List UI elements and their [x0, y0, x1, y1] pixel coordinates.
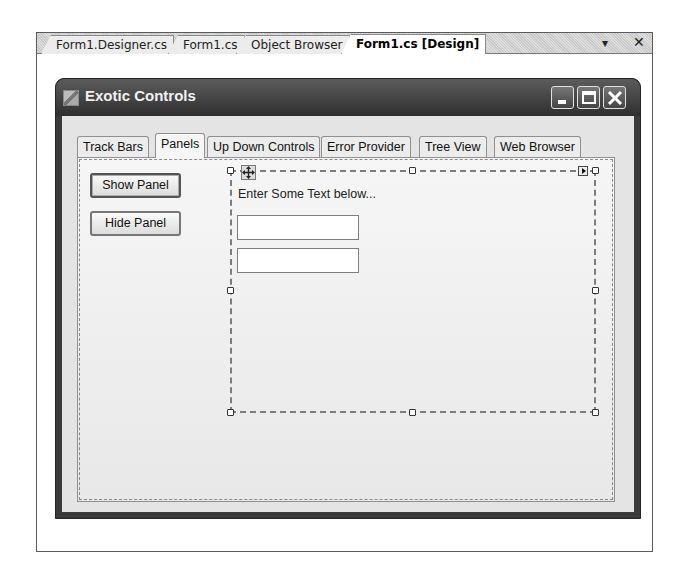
form-title: Exotic Controls — [85, 87, 196, 104]
panel[interactable]: Enter Some Text below... — [230, 170, 596, 413]
tab-error-provider[interactable]: Error Provider — [321, 136, 411, 157]
resize-handle-top-right[interactable] — [592, 167, 599, 174]
minimize-button[interactable] — [551, 86, 574, 109]
form-window[interactable]: Exotic Controls Track Bars Panels Up Dow… — [55, 78, 641, 519]
maximize-icon — [578, 87, 601, 110]
show-panel-button[interactable]: Show Panel — [90, 173, 181, 198]
resize-handle-top-left[interactable] — [227, 167, 234, 174]
doc-tab-form1-design[interactable]: Form1.cs [Design] — [341, 34, 486, 54]
move-icon[interactable] — [241, 165, 256, 180]
tab-web-browser[interactable]: Web Browser — [494, 136, 581, 157]
form-icon — [63, 90, 79, 106]
doc-tab-form1-cs[interactable]: Form1.cs — [168, 35, 245, 54]
form-title-bar[interactable]: Exotic Controls — [56, 79, 640, 116]
minimize-icon — [552, 87, 575, 110]
resize-handle-left[interactable] — [227, 287, 234, 294]
close-button[interactable] — [603, 86, 626, 109]
form-client-area: Track Bars Panels Up Down Controls Error… — [62, 116, 634, 512]
resize-handle-bottom[interactable] — [409, 409, 416, 416]
resize-handle-right[interactable] — [592, 287, 599, 294]
document-tab-strip: Form1.Designer.cs Form1.cs Object Browse… — [37, 33, 652, 54]
doc-tab-form1-designer[interactable]: Form1.Designer.cs — [41, 35, 174, 54]
resize-handle-bottom-right[interactable] — [592, 409, 599, 416]
resize-handle-top[interactable] — [409, 167, 416, 174]
chevron-down-icon[interactable]: ▾ — [602, 36, 608, 50]
resize-handle-bottom-left[interactable] — [227, 409, 234, 416]
tab-up-down-controls[interactable]: Up Down Controls — [207, 136, 320, 157]
tab-panels[interactable]: Panels — [155, 133, 205, 158]
tab-track-bars[interactable]: Track Bars — [77, 136, 149, 157]
smart-tag-arrow-icon[interactable] — [578, 166, 588, 176]
hide-panel-button[interactable]: Hide Panel — [90, 211, 181, 236]
maximize-button[interactable] — [577, 86, 600, 109]
doc-tab-object-browser[interactable]: Object Browser — [236, 35, 350, 54]
close-icon — [604, 87, 627, 110]
panel-textbox-1[interactable] — [237, 215, 359, 240]
tab-page-panels: Show Panel Hide Panel Enter Some Text be… — [77, 157, 615, 502]
tab-tree-view[interactable]: Tree View — [419, 136, 487, 157]
panel-textbox-2[interactable] — [237, 248, 359, 273]
panel-instruction-label: Enter Some Text below... — [238, 187, 376, 201]
close-icon[interactable]: ✕ — [633, 34, 645, 50]
